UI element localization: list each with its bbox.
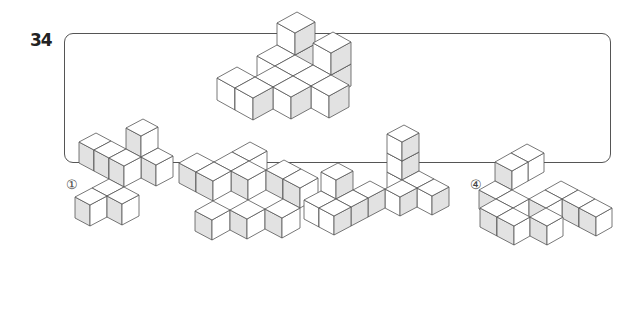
choice-4-cube-figure[interactable] xyxy=(0,0,644,319)
